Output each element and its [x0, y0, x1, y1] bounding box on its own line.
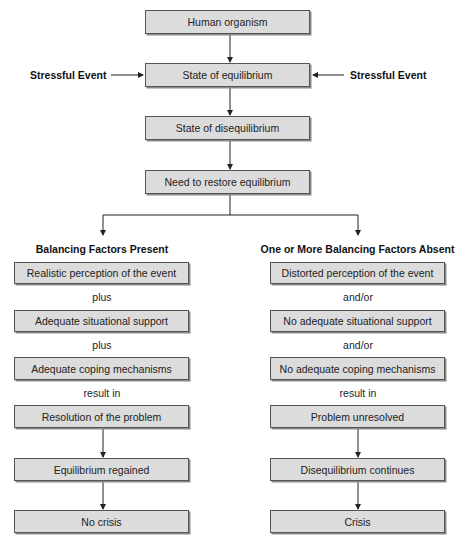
box-left-factor-perception: Realistic perception of the event	[14, 262, 189, 284]
box-left-outcome-equilibrium-regained: Equilibrium regained	[14, 458, 189, 481]
box-label: Need to restore equilibrium	[164, 176, 290, 188]
box-label: Adequate coping mechanisms	[31, 363, 172, 375]
box-human-organism: Human organism	[145, 10, 310, 34]
box-state-of-equilibrium: State of equilibrium	[145, 63, 310, 87]
box-right-outcome-disequilibrium-continues: Disequilibrium continues	[270, 458, 445, 481]
right-connector-3: result in	[270, 387, 446, 399]
box-label: State of disequilibrium	[176, 122, 279, 134]
left-branch-heading: Balancing Factors Present	[14, 243, 190, 255]
box-label: Equilibrium regained	[54, 464, 150, 476]
box-need-to-restore: Need to restore equilibrium	[145, 170, 310, 194]
box-label: Disequilibrium continues	[301, 464, 415, 476]
left-connector-3: result in	[14, 387, 190, 399]
box-left-outcome-no-crisis: No crisis	[14, 510, 189, 533]
box-label: Resolution of the problem	[42, 411, 162, 423]
left-connector-1: plus	[14, 291, 190, 303]
box-label: Distorted perception of the event	[282, 267, 434, 279]
box-right-factor-coping: No adequate coping mechanisms	[270, 357, 445, 380]
box-label: State of equilibrium	[183, 69, 273, 81]
left-connector-2: plus	[14, 339, 190, 351]
box-label: No adequate coping mechanisms	[280, 363, 436, 375]
box-left-outcome-resolution: Resolution of the problem	[14, 405, 189, 428]
box-right-factor-support: No adequate situational support	[270, 310, 445, 332]
stressful-event-left-label: Stressful Event	[30, 69, 106, 81]
box-state-of-disequilibrium: State of disequilibrium	[145, 116, 310, 140]
right-connector-2: and/or	[270, 339, 446, 351]
right-connector-1: and/or	[270, 291, 446, 303]
stressful-event-right-label: Stressful Event	[350, 69, 426, 81]
box-right-outcome-crisis: Crisis	[270, 510, 445, 533]
box-left-factor-support: Adequate situational support	[14, 310, 189, 332]
box-label: Realistic perception of the event	[27, 267, 176, 279]
box-right-factor-perception: Distorted perception of the event	[270, 262, 445, 284]
right-branch-heading: One or More Balancing Factors Absent	[255, 243, 460, 255]
box-label: Adequate situational support	[35, 315, 168, 327]
box-label: No adequate situational support	[283, 315, 431, 327]
box-label: Problem unresolved	[311, 411, 404, 423]
box-left-factor-coping: Adequate coping mechanisms	[14, 357, 189, 380]
box-label: No crisis	[81, 516, 121, 528]
box-label: Crisis	[344, 516, 370, 528]
box-right-outcome-unresolved: Problem unresolved	[270, 405, 445, 428]
box-label: Human organism	[188, 16, 268, 28]
